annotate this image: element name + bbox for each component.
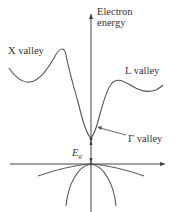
- x-valley-label: X valley: [8, 46, 44, 57]
- gamma-min-dot: [90, 138, 93, 141]
- band-structure-svg: [0, 0, 175, 212]
- energy-axis: [89, 13, 93, 212]
- gamma-valley-label: Γ valley: [128, 134, 162, 145]
- conduction-band-curve: [9, 49, 163, 138]
- gamma-pointer-arrow: [97, 126, 126, 135]
- energy-axis-label-line1: Electron: [97, 6, 133, 17]
- bandgap-label: Eg: [72, 148, 82, 160]
- bandgap-subscript: g: [78, 152, 82, 160]
- l-valley-label: L valley: [125, 66, 159, 77]
- energy-axis-label: Electron energy: [97, 6, 133, 28]
- energy-axis-label-line2: energy: [97, 17, 133, 28]
